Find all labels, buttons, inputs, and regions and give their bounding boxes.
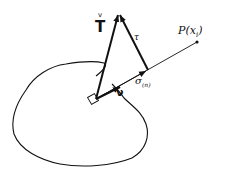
shear-label: τ (134, 32, 140, 42)
normal-stress-subscript: (n) (142, 81, 151, 88)
shear-arrow (120, 15, 148, 70)
point-p-dot (195, 40, 198, 43)
point-label: P(xi) (177, 24, 202, 39)
body-outline (13, 61, 148, 166)
normal-vector-label: ν (116, 86, 124, 99)
stress-diagram: v T τ σ (n) ν P(xi) (0, 0, 235, 176)
traction-label: T (95, 18, 106, 36)
